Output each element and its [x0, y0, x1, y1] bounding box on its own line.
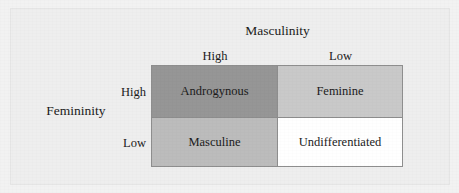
matrix-cell-label: Undifferentiated — [299, 135, 381, 150]
column-header-high: High — [152, 50, 278, 63]
matrix-cell-undifferentiated: Undifferentiated — [277, 117, 403, 167]
matrix-grid: Androgynous Feminine Masculine Undiffere… — [152, 66, 403, 167]
row-header-low: Low — [106, 137, 146, 150]
row-header-high: High — [106, 86, 146, 99]
matrix-cell-label: Feminine — [316, 84, 363, 99]
row-axis-title: Femininity — [34, 104, 118, 118]
column-axis-title: Masculinity — [152, 24, 403, 38]
column-header-low: Low — [278, 50, 403, 63]
matrix-cell-masculine: Masculine — [151, 117, 278, 167]
matrix-cell-feminine: Feminine — [277, 65, 403, 118]
matrix-cell-androgynous: Androgynous — [151, 65, 278, 118]
matrix-cell-label: Androgynous — [180, 84, 248, 99]
matrix-cell-label: Masculine — [188, 135, 240, 150]
gender-role-matrix-figure: Masculinity High Low Femininity High Low… — [0, 0, 459, 193]
